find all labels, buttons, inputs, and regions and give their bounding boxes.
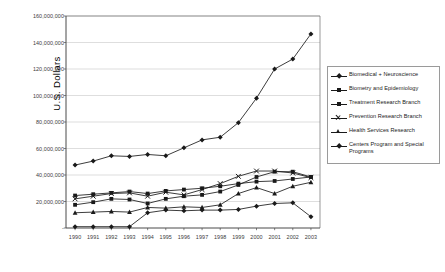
x-tick-label: 1999 xyxy=(232,234,244,240)
data-point xyxy=(236,207,241,212)
legend-label: Health Services Research xyxy=(347,126,415,134)
series-3 xyxy=(73,169,314,202)
x-axis-tick-labels: 1990199119921993199419951996199719981999… xyxy=(0,234,445,248)
data-point xyxy=(164,197,168,201)
data-point xyxy=(145,152,150,157)
x-tick-label: 1998 xyxy=(214,234,226,240)
data-point xyxy=(273,179,277,183)
legend-marker-icon xyxy=(331,100,347,109)
data-point xyxy=(91,159,96,164)
legend-marker-icon xyxy=(331,86,347,95)
x-tick-label: 1994 xyxy=(141,234,153,240)
y-tick-label: - xyxy=(6,225,64,231)
data-point xyxy=(236,183,240,187)
legend-label: Prevention Research Branch xyxy=(347,112,422,120)
data-point xyxy=(109,153,114,158)
series-line xyxy=(75,34,311,165)
y-axis-tick-labels: 160,000,000140,000,000120,000,000100,000… xyxy=(4,0,64,272)
x-tick-label: 1991 xyxy=(87,234,99,240)
x-tick-label: 2003 xyxy=(305,234,317,240)
x-tick-label: 1997 xyxy=(196,234,208,240)
x-tick-label: 1993 xyxy=(123,234,135,240)
legend-item: Biomedical + Neuroscience xyxy=(330,70,437,84)
y-tick-label: 160,000,000 xyxy=(6,13,64,19)
data-point xyxy=(182,188,186,192)
y-tick-label: 100,000,000 xyxy=(6,93,64,99)
data-point xyxy=(109,197,113,201)
legend-marker-icon xyxy=(331,72,347,81)
data-point xyxy=(127,154,132,159)
y-tick-label: 20,000,000 xyxy=(6,199,64,205)
y-tick-label: 120,000,000 xyxy=(6,66,64,72)
legend-item: Centers Program and Special Programs xyxy=(330,140,437,159)
x-tick-label: 2001 xyxy=(268,234,280,240)
series-2 xyxy=(73,170,313,207)
data-point xyxy=(309,180,314,185)
y-tick-label: 60,000,000 xyxy=(6,146,64,152)
data-point xyxy=(163,153,168,158)
data-point xyxy=(200,137,205,142)
legend-label: Biometry and Epidemiology xyxy=(347,84,418,92)
series-5 xyxy=(73,200,314,229)
data-point xyxy=(218,208,223,213)
x-tick-label: 2000 xyxy=(250,234,262,240)
series-0 xyxy=(73,31,314,167)
data-point xyxy=(181,145,186,150)
data-point xyxy=(146,202,150,206)
data-point xyxy=(255,180,259,184)
legend-marker-icon xyxy=(331,128,347,137)
data-point xyxy=(73,203,77,207)
x-tick-label: 2002 xyxy=(287,234,299,240)
data-point xyxy=(218,190,222,194)
data-point xyxy=(254,185,259,190)
legend-item: Biometry and Epidemiology xyxy=(330,84,437,98)
x-tick-label: 1992 xyxy=(105,234,117,240)
legend-label: Centers Program and Special Programs xyxy=(347,140,437,154)
series-line xyxy=(75,203,311,227)
y-tick-label: 80,000,000 xyxy=(6,119,64,125)
legend-marker-icon xyxy=(331,114,347,123)
data-point xyxy=(200,193,204,197)
y-tick-label: 140,000,000 xyxy=(6,40,64,46)
x-tick-label: 1995 xyxy=(160,234,172,240)
y-tick-label: 40,000,000 xyxy=(6,172,64,178)
data-point xyxy=(91,200,95,204)
data-point xyxy=(255,175,259,179)
legend-label: Biomedical + Neuroscience xyxy=(347,70,418,78)
line-chart: U.S. Dollars 160,000,000140,000,000120,0… xyxy=(0,0,445,272)
data-point xyxy=(272,67,277,72)
data-point xyxy=(254,204,259,209)
legend-label: Treatment Research Branch xyxy=(347,98,420,106)
legend-item: Health Services Research xyxy=(330,126,437,140)
data-point xyxy=(181,208,186,213)
x-tick-label: 1990 xyxy=(69,234,81,240)
data-point xyxy=(128,198,132,202)
chart-legend: Biomedical + NeuroscienceBiometry and Ep… xyxy=(327,66,440,164)
legend-marker-icon xyxy=(331,142,347,151)
x-tick-label: 1996 xyxy=(178,234,190,240)
data-point xyxy=(73,163,78,168)
legend-item: Treatment Research Branch xyxy=(330,98,437,112)
data-point xyxy=(218,202,223,207)
data-point xyxy=(291,177,295,181)
legend-item: Prevention Research Branch xyxy=(330,112,437,126)
series-4 xyxy=(73,180,314,215)
